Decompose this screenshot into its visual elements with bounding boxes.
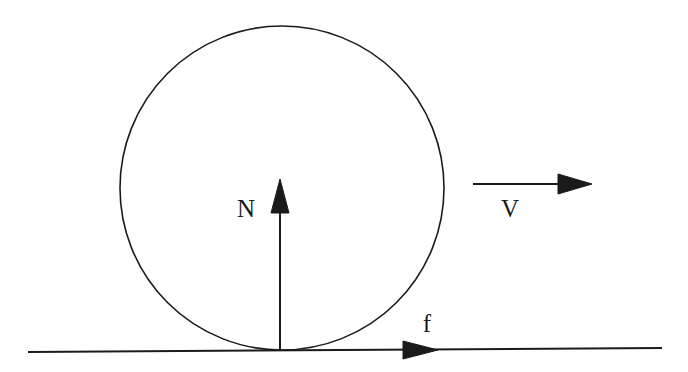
friction-arrowhead bbox=[403, 341, 438, 359]
physics-diagram: f N V bbox=[0, 0, 688, 372]
normal-force-vector: N bbox=[237, 179, 289, 351]
diagram-canvas: f N V bbox=[0, 0, 688, 372]
velocity-arrowhead bbox=[558, 174, 592, 194]
normal-force-label: N bbox=[237, 195, 255, 222]
friction-force-vector: f bbox=[403, 310, 438, 359]
normal-force-arrowhead bbox=[271, 179, 289, 213]
velocity-vector: V bbox=[473, 174, 592, 222]
velocity-label: V bbox=[501, 195, 519, 222]
ground-line bbox=[28, 348, 662, 352]
friction-force-label: f bbox=[423, 310, 432, 337]
